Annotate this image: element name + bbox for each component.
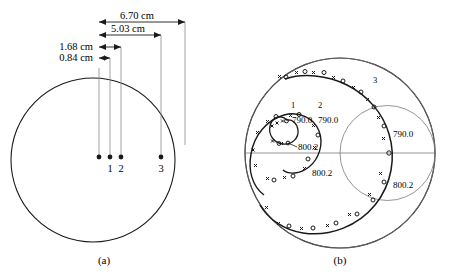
locus-3-label: 3: [373, 75, 377, 85]
dim-label-168: 1.68 cm: [59, 41, 93, 52]
freq-label-locus3-790: 790.0: [393, 129, 414, 139]
dim-arrow-168-left: [99, 44, 106, 50]
freq-label-locus1-790: 790.0: [292, 115, 313, 125]
dim-arrow-503-right: [154, 32, 161, 38]
feed-point-label-3: 3: [158, 163, 163, 174]
feed-point-3: [159, 155, 164, 160]
locus-3-curve: [260, 76, 392, 234]
figure-root: 6.70 cm 5.03 cm 1.68 cm 0.84 cm 1 2 3 (a…: [0, 0, 450, 278]
dim-arrow-503-left: [99, 32, 106, 38]
locus-2-label: 2: [318, 100, 322, 110]
dim-arrow-084-right: [104, 56, 110, 61]
freq-label-locus3-800: 800.2: [393, 180, 413, 190]
panel-b-caption: (b): [334, 254, 347, 267]
locus-1-markers: [271, 119, 290, 145]
dim-arrow-168-right: [114, 44, 121, 50]
dim-arrow-670-right: [178, 19, 185, 25]
dim-label-503: 5.03 cm: [111, 23, 145, 34]
feed-point-label-2: 2: [118, 163, 123, 174]
freq-label-locus1-800: 800.2: [298, 142, 318, 152]
freq-leader-locus1-800: [288, 143, 297, 147]
panel-a-caption: (a): [98, 254, 111, 267]
locus-2-curve: [250, 114, 321, 195]
panel-a-circle: [11, 78, 175, 242]
locus-1-label: 1: [291, 100, 295, 110]
feed-point-2: [119, 155, 124, 160]
dim-arrow-670-left: [99, 19, 106, 25]
feed-point-label-1: 1: [107, 163, 112, 174]
dim-label-670: 6.70 cm: [120, 10, 154, 21]
figure-svg: 6.70 cm 5.03 cm 1.68 cm 0.84 cm 1 2 3 (a…: [0, 0, 450, 278]
panel-b: 1 2: [245, 58, 435, 267]
dim-label-084: 0.84 cm: [59, 52, 93, 63]
feed-point-1: [108, 155, 113, 160]
panel-a: 6.70 cm 5.03 cm 1.68 cm 0.84 cm 1 2 3 (a…: [11, 10, 185, 267]
locus-3: 3: [260, 70, 392, 234]
locus-3-markers: [265, 70, 391, 231]
freq-label-locus2-790: 790.0: [318, 115, 339, 125]
feed-point-0: [97, 155, 102, 160]
freq-label-locus2-800: 800.2: [312, 168, 332, 178]
